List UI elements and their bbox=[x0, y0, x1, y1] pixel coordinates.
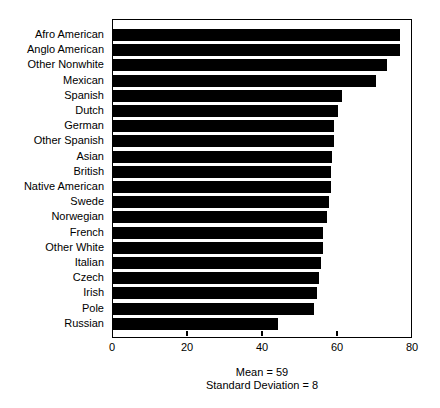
bar bbox=[113, 105, 338, 117]
y-axis-label: Russian bbox=[64, 317, 104, 329]
bar-row bbox=[113, 59, 387, 71]
bar-row bbox=[113, 75, 376, 87]
y-axis-label: Dutch bbox=[75, 104, 104, 116]
y-axis-category-labels: Afro AmericanAnglo AmericanOther Nonwhit… bbox=[0, 19, 108, 338]
bar bbox=[113, 44, 400, 56]
bar-row bbox=[113, 272, 319, 284]
y-axis-label: Czech bbox=[73, 271, 104, 283]
bar-row bbox=[113, 181, 331, 193]
x-axis-tick-label: 60 bbox=[331, 341, 343, 354]
y-axis-label: British bbox=[73, 165, 104, 177]
chart-title bbox=[112, 0, 412, 1]
bar-row bbox=[113, 287, 317, 299]
bar bbox=[113, 272, 319, 284]
bar bbox=[113, 166, 331, 178]
chart-footnotes: Mean = 59 Standard Deviation = 8 bbox=[112, 366, 412, 392]
x-axis-tick-labels: 020406080 bbox=[112, 341, 412, 355]
x-axis-tick-mark bbox=[261, 331, 263, 336]
bar bbox=[113, 151, 332, 163]
footnote-mean: Mean = 59 bbox=[112, 366, 412, 379]
x-axis-tick-mark bbox=[186, 331, 188, 336]
bar-row bbox=[113, 196, 329, 208]
x-axis-tick-label: 80 bbox=[406, 341, 418, 354]
bar bbox=[113, 257, 321, 269]
bar-row bbox=[113, 166, 331, 178]
y-axis-label: Native American bbox=[24, 180, 104, 192]
footnote-standard-deviation: Standard Deviation = 8 bbox=[112, 379, 412, 392]
bar bbox=[113, 75, 376, 87]
bar bbox=[113, 211, 327, 223]
x-axis-tick-label: 40 bbox=[256, 341, 268, 354]
bar bbox=[113, 59, 387, 71]
y-axis-label: Swede bbox=[70, 195, 104, 207]
y-axis-label: Mexican bbox=[63, 74, 104, 86]
bar-chart-figure: Afro AmericanAnglo AmericanOther Nonwhit… bbox=[0, 0, 440, 408]
y-axis-label: Italian bbox=[75, 256, 104, 268]
bar-row bbox=[113, 257, 321, 269]
bar bbox=[113, 196, 329, 208]
plot-area bbox=[112, 19, 412, 338]
y-axis-label: Other Spanish bbox=[34, 134, 104, 146]
y-axis-label: Asian bbox=[76, 150, 104, 162]
bar bbox=[113, 29, 400, 41]
y-axis-label: French bbox=[70, 226, 104, 238]
bar bbox=[113, 287, 317, 299]
bar-row bbox=[113, 318, 278, 330]
bar-row bbox=[113, 90, 342, 102]
y-axis-label: Norwegian bbox=[51, 210, 104, 222]
bar-row bbox=[113, 151, 332, 163]
bar-row bbox=[113, 242, 323, 254]
bar-row bbox=[113, 44, 400, 56]
bar bbox=[113, 242, 323, 254]
y-axis-label: Other Nonwhite bbox=[28, 58, 104, 70]
bar-row bbox=[113, 29, 400, 41]
bar bbox=[113, 318, 278, 330]
bar-row bbox=[113, 303, 314, 315]
y-axis-label: Pole bbox=[82, 302, 104, 314]
bar-row bbox=[113, 211, 327, 223]
bar bbox=[113, 90, 342, 102]
x-axis-tick-label: 20 bbox=[181, 341, 193, 354]
bar-row bbox=[113, 105, 338, 117]
bar-row bbox=[113, 135, 334, 147]
bar bbox=[113, 303, 314, 315]
y-axis-label: German bbox=[64, 119, 104, 131]
y-axis-label: Irish bbox=[83, 286, 104, 298]
y-axis-label: Other White bbox=[45, 241, 104, 253]
x-axis-tick-mark bbox=[336, 331, 338, 336]
x-axis-tick-label: 0 bbox=[109, 341, 115, 354]
bar bbox=[113, 135, 334, 147]
y-axis-label: Spanish bbox=[64, 89, 104, 101]
y-axis-label: Anglo American bbox=[27, 43, 104, 55]
bar-row bbox=[113, 120, 334, 132]
bar bbox=[113, 120, 334, 132]
bars-layer bbox=[113, 20, 411, 337]
y-axis-label: Afro American bbox=[35, 28, 104, 40]
bar-row bbox=[113, 227, 323, 239]
bar bbox=[113, 181, 331, 193]
bar bbox=[113, 227, 323, 239]
